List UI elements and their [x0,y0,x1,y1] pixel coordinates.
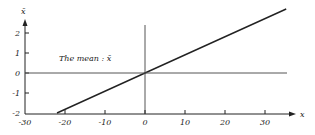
y-axis-label: x̄ [21,7,26,16]
x-tick-label: 20 [219,118,230,127]
y-tick-label: 2 [14,29,20,38]
chart-svg: -30-20-100102030-2-1012x̄xThe mean : x̄ [0,0,315,135]
x-axis-label: x [300,110,305,119]
x-tick-label: 30 [260,118,270,127]
x-tick-label: 0 [142,118,147,127]
y-tick-label: 0 [15,69,20,78]
y-tick-label: 1 [15,49,20,58]
y-axis-arrow-icon [23,19,28,26]
axes [23,19,297,117]
annotation-the-mean: The mean : x̄ [59,54,112,63]
x-axis-arrow-icon [289,112,296,117]
x-tick-label: 10 [180,118,190,127]
y-tick-label: -1 [12,89,20,98]
y-tick-label: -2 [12,109,20,118]
x-tick-label: -30 [19,118,32,127]
x-tick-label: -20 [59,118,72,127]
chart: -30-20-100102030-2-1012x̄xThe mean : x̄ [0,0,315,135]
x-tick-label: -10 [99,118,112,127]
